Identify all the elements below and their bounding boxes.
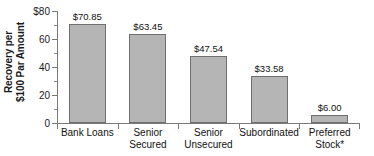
y-tick-minor-70 <box>54 25 57 26</box>
bar-0: $70.85 <box>69 24 106 123</box>
bar-value-label: $6.00 <box>318 102 342 113</box>
plot-area: 0204060$80 $70.85$63.45$47.54$33.58$6.00 <box>57 11 360 123</box>
recovery-bar-chart: Recovery per $100 Par Amount 0204060$80 … <box>0 0 374 156</box>
bar-value-label: $63.45 <box>133 21 162 32</box>
category-label-line: Secured <box>118 139 179 151</box>
category-label-line: Unsecured <box>178 139 239 151</box>
y-tick-mark <box>52 11 57 12</box>
category-label-line: Subordinated <box>239 127 300 139</box>
bar-2: $47.54 <box>190 56 227 123</box>
bar-value-label: $33.58 <box>255 63 284 74</box>
y-tick-label: $80 <box>33 6 50 17</box>
category-label-line: Stock* <box>299 139 360 151</box>
y-tick-minor-50 <box>54 53 57 54</box>
y-tick-mark <box>52 95 57 96</box>
y-tick-mark <box>52 39 57 40</box>
category-label-2: SeniorUnsecured <box>178 127 239 151</box>
y-tick-mark <box>52 67 57 68</box>
y-axis-title: Recovery per $100 Par Amount <box>0 0 30 124</box>
y-tick-minor-30 <box>54 81 57 82</box>
bar-1: $63.45 <box>129 34 166 123</box>
y-tick-minor-10 <box>54 109 57 110</box>
category-label-line: Bank Loans <box>57 127 118 139</box>
category-label-3: Subordinated <box>239 127 300 139</box>
y-axis-line <box>57 11 58 123</box>
y-axis-title-line-2: $100 Par Amount <box>15 22 27 102</box>
y-tick-label: 60 <box>39 34 50 45</box>
category-label-line: Senior <box>118 127 179 139</box>
y-tick-label: 20 <box>39 90 50 101</box>
y-axis-title-line-1: Recovery per <box>3 31 15 93</box>
category-label-line: Senior <box>178 127 239 139</box>
category-label-1: SeniorSecured <box>118 127 179 151</box>
category-label-0: Bank Loans <box>57 127 118 139</box>
y-tick-label: 40 <box>39 62 50 73</box>
category-label-4: PreferredStock* <box>299 127 360 151</box>
bar-3: $33.58 <box>251 76 288 123</box>
category-label-line: Preferred <box>299 127 360 139</box>
y-tick-label: 0 <box>44 118 50 129</box>
bar-value-label: $70.85 <box>73 11 102 22</box>
bar-4: $6.00 <box>311 115 348 123</box>
bar-value-label: $47.54 <box>194 43 223 54</box>
x-axis-line <box>57 123 360 124</box>
